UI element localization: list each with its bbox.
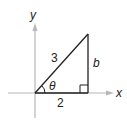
adjacent-side-label: 2 bbox=[57, 96, 64, 110]
theta-angle-arc bbox=[42, 86, 45, 93]
x-axis-arrowhead bbox=[106, 91, 114, 96]
y-axis-arrowhead bbox=[33, 23, 38, 31]
right-angle-marker bbox=[80, 85, 88, 93]
hypotenuse-label: 3 bbox=[51, 51, 58, 65]
theta-label: θ bbox=[49, 79, 56, 93]
x-axis-label: x bbox=[115, 86, 123, 100]
triangle-hypotenuse bbox=[35, 34, 88, 93]
opposite-side-label: b bbox=[93, 56, 100, 70]
triangle-diagram: y x 3 b θ 2 bbox=[0, 0, 127, 123]
y-axis-label: y bbox=[29, 8, 37, 22]
